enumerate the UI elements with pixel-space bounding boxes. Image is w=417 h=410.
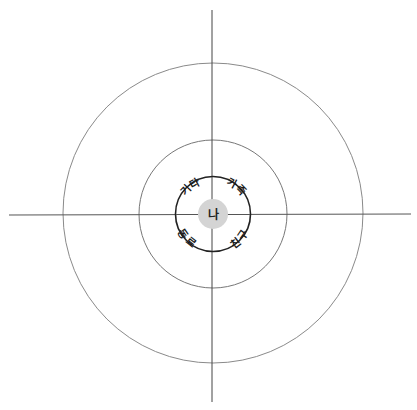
relationship-circle-diagram: 기타 가족 동료 친구 나 — [0, 0, 417, 410]
center-label: 나 — [208, 207, 219, 222]
